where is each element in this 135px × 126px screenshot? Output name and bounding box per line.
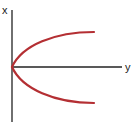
vertical-axis-label: x bbox=[2, 4, 8, 16]
parabola-diagram: x y bbox=[0, 0, 135, 126]
horizontal-axis-label: y bbox=[125, 61, 131, 73]
